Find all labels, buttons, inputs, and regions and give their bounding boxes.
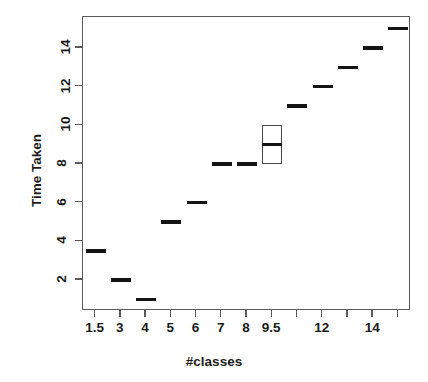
box-median-bar <box>287 104 307 107</box>
y-axis-tick-label: 10 <box>58 117 73 132</box>
box-median-bar <box>111 278 131 281</box>
box-median-bar <box>136 298 156 301</box>
x-axis-tick <box>245 310 246 317</box>
x-axis-tick-label: 1.5 <box>85 320 104 335</box>
x-axis-tick-label: 12 <box>314 320 329 335</box>
box-median-bar <box>187 201 207 204</box>
plot-panel <box>82 16 410 310</box>
y-axis-tick-label: 6 <box>54 198 69 206</box>
x-axis-tick <box>296 310 297 317</box>
y-axis-tick <box>75 240 82 241</box>
x-axis-tick <box>346 310 347 317</box>
y-axis-tick-label: 14 <box>58 39 73 54</box>
plot-data-area <box>83 17 409 309</box>
x-axis-tick-label: 6 <box>192 320 200 335</box>
y-axis-title: Time Taken <box>29 91 44 251</box>
box-median-bar <box>212 162 232 165</box>
y-axis-tick-label: 8 <box>54 159 69 167</box>
scan-artifact <box>8 0 420 4</box>
box-median-bar <box>161 220 181 223</box>
x-axis-tick <box>94 310 95 317</box>
box-median-bar <box>237 162 257 165</box>
x-axis-tick <box>371 310 372 317</box>
box-median-bar <box>262 143 282 146</box>
y-axis-tick <box>75 85 82 86</box>
y-axis-tick-label: 2 <box>54 275 69 283</box>
y-axis-tick-label: 12 <box>58 78 73 93</box>
box-median-bar <box>338 66 358 69</box>
x-axis-tick <box>397 310 398 317</box>
box-median-bar <box>313 85 333 88</box>
y-axis-tick <box>75 46 82 47</box>
box-median-bar <box>86 249 106 252</box>
x-axis-tick <box>220 310 221 317</box>
y-axis-tick <box>75 162 82 163</box>
x-axis-tick <box>170 310 171 317</box>
x-axis-tick <box>195 310 196 317</box>
x-axis-tick <box>119 310 120 317</box>
box-median-bar <box>363 46 383 49</box>
x-axis-tick <box>271 310 272 317</box>
y-axis-tick-label: 4 <box>54 237 69 245</box>
boxplot-figure: Time Taken 2468101214 1.53456789.51214 #… <box>0 0 428 382</box>
x-axis-tick-label: 5 <box>167 320 175 335</box>
x-axis-tick <box>321 310 322 317</box>
x-axis-tick-label: 9.5 <box>262 320 281 335</box>
box-median-bar <box>388 27 408 30</box>
y-axis-tick <box>75 124 82 125</box>
y-axis-tick <box>75 278 82 279</box>
x-axis-title: #classes <box>0 354 428 369</box>
x-axis-tick-label: 3 <box>116 320 124 335</box>
y-axis-tick <box>75 201 82 202</box>
x-axis-tick-label: 4 <box>141 320 149 335</box>
x-axis-tick-label: 8 <box>242 320 250 335</box>
x-axis-tick-label: 7 <box>217 320 225 335</box>
x-axis-tick-label: 14 <box>365 320 380 335</box>
x-axis-tick <box>144 310 145 317</box>
